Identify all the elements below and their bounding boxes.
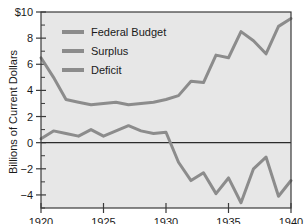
x-tick-label: 1935	[216, 216, 240, 224]
x-tick-label: 1940	[279, 216, 303, 224]
y-tick-label: 8	[27, 32, 33, 44]
federal-budget-line-chart: $1086420−2−4 19201925193019351940 Federa…	[0, 0, 305, 224]
y-tick-label: −2	[20, 163, 33, 175]
y-tick-label: 0	[27, 137, 33, 149]
x-tick-label: 1930	[154, 216, 178, 224]
x-tick-label: 1920	[29, 216, 53, 224]
y-tick-label: 4	[27, 84, 33, 96]
chart-container: $1086420−2−4 19201925193019351940 Federa…	[0, 0, 305, 224]
legend-label: Federal Budget	[91, 26, 166, 38]
y-tick-label: $10	[15, 6, 33, 18]
y-tick-label: 2	[27, 111, 33, 123]
y-axis-title: Billions of Current Dollars	[7, 49, 19, 174]
legend-label: Deficit	[91, 64, 122, 76]
x-tick-label: 1925	[91, 216, 115, 224]
legend-label: Surplus	[91, 45, 129, 57]
y-tick-label: 6	[27, 58, 33, 70]
y-tick-label: −4	[20, 189, 33, 201]
